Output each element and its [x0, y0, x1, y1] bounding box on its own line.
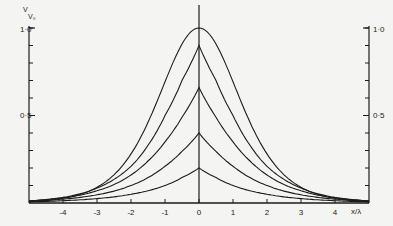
x-tick-label: -3	[93, 208, 101, 217]
x-tick-label: -2	[127, 208, 135, 217]
axes: -4-3-2-101234	[29, 5, 369, 217]
y-axis-title-numerator: V	[23, 6, 28, 13]
chart: -4-3-2-101234 1·0 0·5 1·0 0·5 V V₀ x/λ	[0, 0, 393, 226]
y-axis-title-denominator: V₀	[28, 13, 36, 20]
x-axis-title: x/λ	[351, 207, 361, 216]
right-y-label-1: 1·0	[373, 25, 385, 34]
labels: 1·0 0·5 1·0 0·5 V V₀ x/λ	[20, 6, 385, 216]
x-tick-label: 2	[265, 208, 270, 217]
x-tick-label: 0	[197, 208, 202, 217]
x-tick-label: -4	[59, 208, 67, 217]
x-tick-label: -1	[161, 208, 169, 217]
left-y-label-1: 1·0	[20, 25, 32, 34]
x-tick-label: 3	[299, 208, 304, 217]
left-y-label-0-5: 0·5	[20, 111, 32, 120]
right-y-label-0-5: 0·5	[373, 111, 385, 120]
x-tick-label: 4	[333, 208, 338, 217]
x-tick-label: 1	[231, 208, 236, 217]
